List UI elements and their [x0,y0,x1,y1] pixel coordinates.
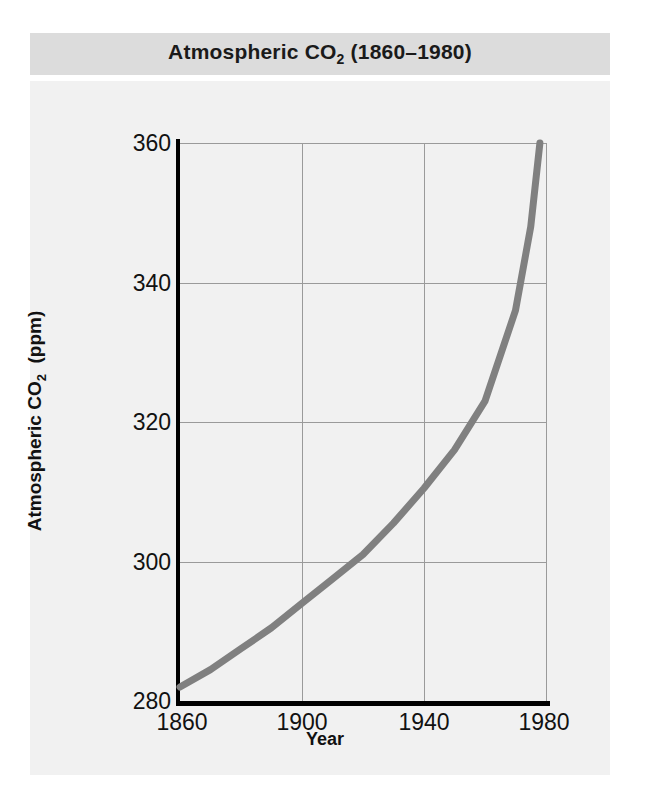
x-axis-line [176,701,550,706]
title-suffix: (1860–1980) [345,40,472,63]
figure: Atmospheric CO2 (1860–1980) Atmospheric … [30,33,610,775]
x-tick-label-1940: 1940 [398,709,449,736]
x-tick-label-1980: 1980 [518,709,569,736]
y-tick-label-340: 340 [133,269,171,296]
page-title: Atmospheric CO2 (1860–1980) [168,40,472,67]
co2-trend-line [180,143,540,687]
y-axis-title: Atmospheric CO2 (ppm) [24,261,49,581]
gridline-x-1980 [546,143,547,701]
y-tick-label-300: 300 [133,548,171,575]
y-tick-label-320: 320 [133,409,171,436]
y-axis-title-main: Atmospheric CO [24,381,45,531]
title-main: Atmospheric CO [168,40,337,63]
plot-area: 360 340 320 300 280 1860 1900 1940 1980 [180,143,546,701]
y-tick-label-360: 360 [133,130,171,157]
chart-title-banner: Atmospheric CO2 (1860–1980) [30,33,610,75]
x-tick-label-1900: 1900 [276,709,327,736]
y-axis-title-subscript: 2 [34,374,49,381]
chart-panel: Atmospheric CO2 (ppm) Year 360 340 320 3… [30,81,610,775]
y-axis-title-suffix: (ppm) [24,311,45,374]
title-subscript: 2 [337,52,345,68]
co2-curve-svg [180,143,546,701]
x-tick-label-1860: 1860 [156,709,207,736]
